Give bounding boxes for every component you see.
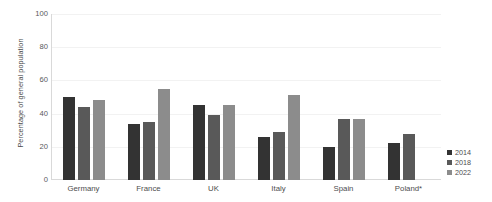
bar-group [52,14,117,180]
bar[interactable] [193,105,205,180]
bar[interactable] [128,124,140,180]
bar-group [376,14,441,180]
x-axis-tick-label: Spain [311,182,376,196]
bar[interactable] [353,119,365,180]
legend-item[interactable]: 2014 [447,148,471,157]
bar[interactable] [338,119,350,180]
bar[interactable] [143,122,155,180]
y-axis-tick-label: 40 [40,110,48,118]
bar[interactable] [288,95,300,180]
y-axis-tick-label: 0 [44,176,48,184]
legend-swatch-icon [447,170,452,175]
y-axis-tick-label: 100 [35,10,48,18]
legend-swatch-icon [447,160,452,165]
bar-group [311,14,376,180]
bar-chart: Percentage of general population 0204060… [0,0,492,202]
legend-item[interactable]: 2018 [447,158,471,167]
y-axis-tick-label: 20 [40,143,48,151]
x-axis-tick-labels: GermanyFranceUKItalySpainPoland* [51,182,441,196]
bar[interactable] [273,132,285,180]
bar[interactable] [388,143,400,180]
y-axis-tick-label: 60 [40,76,48,84]
bar[interactable] [258,137,270,180]
bar[interactable] [323,147,335,180]
x-axis-tick-label: Italy [246,182,311,196]
bar[interactable] [78,107,90,180]
x-axis-tick-label: France [116,182,181,196]
x-axis-tick-label: Poland* [376,182,441,196]
bar-groups [52,14,441,180]
y-axis-tick-label: 80 [40,43,48,51]
bar-group [246,14,311,180]
bar[interactable] [208,115,220,180]
bar[interactable] [403,134,415,180]
y-axis-tick-labels: 020406080100 [24,14,48,180]
x-axis-tick-label: Germany [51,182,116,196]
bar[interactable] [158,89,170,180]
bar-group [117,14,182,180]
legend-label: 2022 [455,168,471,177]
legend-swatch-icon [447,150,452,155]
bar-group [182,14,247,180]
plot-area [51,14,441,180]
bar[interactable] [93,100,105,180]
legend-label: 2018 [455,158,471,167]
legend-label: 2014 [455,148,471,157]
bar[interactable] [223,105,235,180]
bar[interactable] [63,97,75,180]
legend: 201420182022 [447,148,471,177]
legend-item[interactable]: 2022 [447,168,471,177]
x-axis-tick-label: UK [181,182,246,196]
